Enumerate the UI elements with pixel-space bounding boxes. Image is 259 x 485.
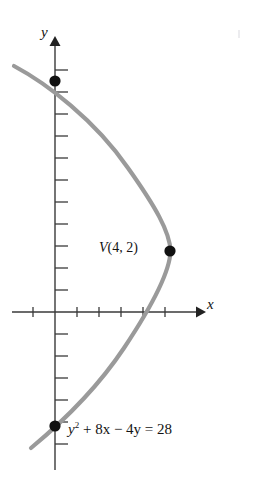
y-axis-ticks xyxy=(55,70,68,444)
x-axis-arrowhead xyxy=(196,307,206,318)
scan-artifact-speck xyxy=(238,30,240,38)
parabola-curve xyxy=(14,66,171,448)
y-axis-arrowhead xyxy=(50,36,61,46)
x-axis-label: x xyxy=(207,296,214,313)
y-axis-label: y xyxy=(41,24,48,41)
vertex-point-label: V(4, 2) xyxy=(99,240,138,256)
point-vertex xyxy=(164,245,175,256)
equation-remainder: + 8x − 4y = 28 xyxy=(79,421,172,437)
equation-variable: y xyxy=(68,421,75,437)
equation-label: y2 + 8x − 4y = 28 xyxy=(68,420,172,438)
point-y-intercept-upper xyxy=(49,75,60,86)
vertex-label-coords: (4, 2) xyxy=(108,240,138,255)
point-y-intercept-lower xyxy=(49,420,60,431)
vertex-label-letter: V xyxy=(99,240,108,255)
